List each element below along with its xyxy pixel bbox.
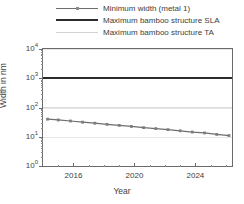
x-axis-minor-tick [165, 165, 166, 167]
legend-item-minimum-width: Minimum width (metal 1) [56, 2, 244, 14]
y-axis-minor-tick [41, 110, 43, 111]
x-axis-minor-tick [119, 165, 120, 167]
series-line-maximum-bamboo-structure-sla [43, 77, 232, 79]
y-axis-minor-tick [41, 61, 43, 62]
y-axis-minor-tick [41, 128, 43, 129]
y-axis-tick [39, 166, 43, 167]
y-axis-tick-label: 100 [8, 162, 38, 170]
legend-line-icon [56, 19, 98, 21]
series-line-maximum-bamboo-structure-ta [43, 107, 232, 109]
legend-label-bamboo-sla: Maximum bamboo structure SLA [98, 16, 220, 25]
legend-item-bamboo-sla: Maximum bamboo structure SLA [56, 14, 244, 26]
y-axis-minor-tick [41, 114, 43, 115]
x-axis-tick-label: 2020 [126, 172, 144, 180]
y-axis-minor-tick [41, 94, 43, 95]
y-axis-minor-tick [41, 52, 43, 53]
series-data-marker [106, 123, 109, 126]
series-data-marker [215, 133, 218, 136]
legend-swatch-minimum-width [56, 2, 98, 14]
legend-swatch-bamboo-sla [56, 14, 98, 26]
x-axis-tick [73, 163, 74, 167]
y-axis-minor-tick [41, 138, 43, 139]
series-data-marker [69, 120, 72, 123]
x-axis-minor-tick [180, 165, 181, 167]
legend-swatch-bamboo-ta [56, 26, 98, 38]
figure-canvas: Minimum width (metal 1) Maximum bamboo s… [0, 0, 244, 204]
x-axis-minor-tick [58, 165, 59, 167]
series-data-marker [179, 129, 182, 132]
y-axis-minor-tick [41, 87, 43, 88]
x-axis-minor-tick [150, 165, 151, 167]
plot-area [42, 48, 233, 167]
y-axis-minor-tick [41, 148, 43, 149]
y-axis-title: Width in nm [0, 63, 8, 108]
x-axis-title: Year [0, 186, 244, 196]
y-axis-minor-tick [41, 54, 43, 55]
legend-square-marker-icon [76, 7, 79, 10]
series-data-marker [46, 118, 49, 121]
series-data-marker [167, 128, 170, 131]
legend-label-minimum-width: Minimum width (metal 1) [98, 4, 190, 13]
y-axis-minor-tick [41, 80, 43, 81]
x-axis-minor-tick [226, 165, 227, 167]
x-axis-tick-label: 2024 [187, 172, 205, 180]
series-data-marker [130, 125, 133, 128]
y-axis-tick-label: 102 [8, 104, 38, 112]
series-data-marker [57, 119, 60, 122]
y-axis-minor-tick [41, 140, 43, 141]
y-axis-tick-label: 103 [8, 74, 38, 82]
y-axis-minor-tick [41, 81, 43, 82]
y-axis-minor-tick [41, 157, 43, 158]
y-axis-minor-tick [41, 116, 43, 117]
y-axis-minor-tick [41, 55, 43, 56]
chart-legend: Minimum width (metal 1) Maximum bamboo s… [56, 2, 244, 38]
x-axis-tick-label: 2016 [65, 172, 83, 180]
x-axis-tick [134, 163, 135, 167]
series-data-marker [81, 121, 84, 124]
y-axis-tick-label: 104 [8, 45, 38, 53]
x-axis-tick [195, 163, 196, 167]
y-axis-minor-tick [41, 143, 43, 144]
y-axis-minor-tick [41, 90, 43, 91]
legend-label-bamboo-ta: Maximum bamboo structure TA [98, 28, 214, 37]
series-data-marker [118, 124, 121, 127]
y-axis-minor-tick [41, 85, 43, 86]
y-axis-minor-tick [41, 83, 43, 84]
legend-item-bamboo-ta: Maximum bamboo structure TA [56, 26, 244, 38]
series-data-marker [228, 134, 231, 137]
series-data-marker [93, 122, 96, 125]
series-data-marker [154, 127, 157, 130]
series-data-marker [203, 132, 206, 135]
y-axis-minor-tick [41, 64, 43, 65]
y-axis-minor-tick [41, 109, 43, 110]
series-data-marker [142, 126, 145, 129]
y-axis-minor-tick [41, 152, 43, 153]
y-axis-minor-tick [41, 141, 43, 142]
y-axis-minor-tick [41, 146, 43, 147]
y-axis-minor-tick [41, 123, 43, 124]
y-axis-minor-tick [41, 58, 43, 59]
series-polyline [48, 119, 229, 135]
legend-line-icon [56, 32, 98, 33]
y-axis-minor-tick [41, 50, 43, 51]
y-axis-minor-tick [41, 99, 43, 100]
y-axis-minor-tick [41, 119, 43, 120]
x-axis-minor-tick [211, 165, 212, 167]
y-axis-minor-tick [41, 69, 43, 70]
x-axis-minor-tick [89, 165, 90, 167]
y-axis-minor-tick [41, 112, 43, 113]
series-data-marker [191, 131, 194, 134]
y-axis-tick-label: 101 [8, 133, 38, 141]
x-axis-minor-tick [104, 165, 105, 167]
